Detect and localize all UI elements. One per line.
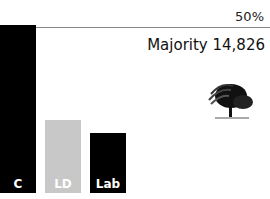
fifty-percent-label: 50% bbox=[235, 9, 264, 24]
majority-label: Majority 14,826 bbox=[147, 36, 265, 54]
bar-ld: LD bbox=[45, 120, 81, 193]
bar-c: C bbox=[0, 25, 36, 193]
bar-label: C bbox=[0, 177, 36, 191]
bar-label: Lab bbox=[90, 177, 126, 191]
bar-lab: Lab bbox=[90, 133, 126, 193]
bar-label: LD bbox=[45, 177, 81, 191]
fifty-percent-line bbox=[36, 27, 270, 28]
conservative-tree-icon bbox=[205, 80, 260, 122]
